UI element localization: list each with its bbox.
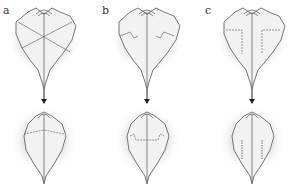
panel-b-top [109, 6, 185, 90]
panel-c-top [214, 6, 289, 90]
panel-label-a: a [3, 4, 10, 17]
panel-label-b: b [102, 4, 109, 17]
panel-a-bottom [10, 106, 78, 184]
down-arrow-c [249, 90, 255, 104]
down-arrow-a [41, 90, 47, 104]
diagram-canvas [0, 0, 289, 187]
panel-c-bottom [218, 106, 286, 184]
panel-label-c: c [205, 4, 211, 17]
down-arrow-b [144, 90, 150, 104]
panel-a-top [6, 6, 82, 90]
panel-b-bottom [113, 106, 181, 184]
